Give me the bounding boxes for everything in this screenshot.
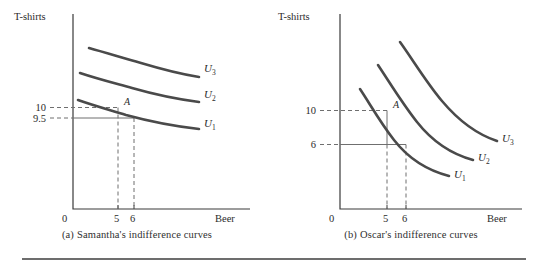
panel-samantha: T-shirts Beer 0 5 6 10 9.5 A — [0, 0, 274, 250]
curve-label-u2-oscar: U2 — [478, 151, 490, 166]
indifference-curves-figure: T-shirts Beer 0 5 6 10 9.5 A — [0, 0, 548, 269]
curve-u2-samantha — [80, 73, 199, 102]
curve-u3-samantha — [89, 48, 199, 77]
x-tick-label-5-a: 5 — [114, 213, 119, 224]
caption-tag-a: (a) — [62, 229, 74, 240]
curve-label-u2-samantha: U2 — [204, 88, 216, 103]
axis-lines — [73, 14, 250, 209]
origin-label-a: 0 — [62, 213, 67, 224]
origin-label-b: 0 — [329, 213, 334, 224]
x-axis-title-a: Beer — [215, 213, 235, 224]
curve-u1-samantha — [78, 100, 199, 129]
caption-samantha: (a)Samantha's indifference curves — [0, 229, 274, 240]
caption-oscar: (b)Oscar's indifference curves — [274, 229, 548, 240]
curve-label-u1-oscar: U1 — [454, 168, 466, 183]
chart-oscar: T-shirts Beer 0 5 6 10 6 A — [274, 0, 548, 225]
chart-samantha: T-shirts Beer 0 5 6 10 9.5 A — [0, 0, 274, 225]
point-label-a-samantha: A — [123, 96, 131, 107]
y-axis-title-b: T-shirts — [278, 11, 310, 22]
curve-label-u3-samantha: U3 — [204, 62, 216, 77]
curve-u3-oscar — [400, 42, 497, 141]
caption-text-b: Oscar's indifference curves — [360, 229, 478, 240]
y-tick-label-6-b: 6 — [311, 139, 316, 150]
curve-u1-oscar — [360, 89, 449, 176]
x-axis-title-b: Beer — [487, 213, 507, 224]
curve-label-u1-samantha: U1 — [204, 117, 216, 132]
y-tick-label-9p5-a: 9.5 — [33, 113, 46, 124]
figure-divider-rule — [22, 258, 526, 260]
x-tick-label-6-a: 6 — [130, 213, 135, 224]
caption-tag-b: (b) — [344, 229, 357, 240]
y-axis-title-a: T-shirts — [14, 11, 46, 22]
x-tick-label-6-b: 6 — [402, 213, 407, 224]
y-tick-label-10-a: 10 — [36, 102, 47, 113]
curve-label-u3-oscar: U3 — [502, 132, 514, 147]
caption-text-a: Samantha's indifference curves — [77, 229, 212, 240]
axis-lines-b — [340, 14, 522, 209]
point-label-a-oscar: A — [392, 99, 400, 110]
panel-oscar: T-shirts Beer 0 5 6 10 6 A — [274, 0, 548, 250]
x-tick-label-5-b: 5 — [383, 213, 388, 224]
y-tick-label-10-b: 10 — [306, 105, 317, 116]
